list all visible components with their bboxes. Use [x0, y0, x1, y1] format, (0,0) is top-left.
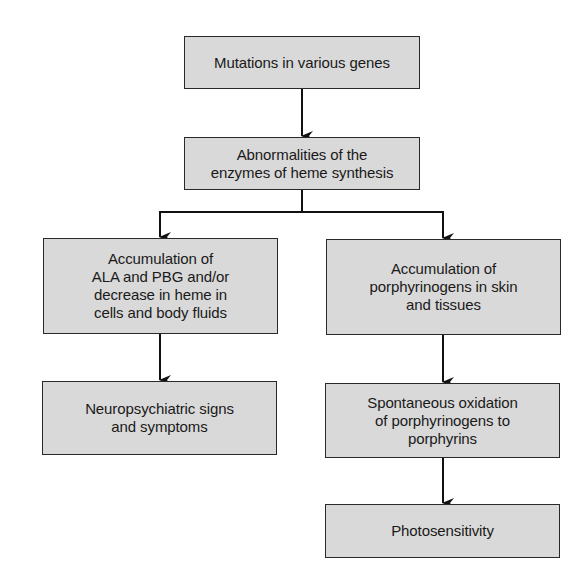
node-enzyme-abnormalities: Abnormalities of the enzymes of heme syn… — [184, 137, 420, 190]
node-porphyrinogen-accumulation: Accumulation of porphyrinogens in skin a… — [326, 239, 561, 335]
flowchart-canvas: Mutations in various genes Abnormalities… — [0, 0, 588, 574]
node-spontaneous-oxidation: Spontaneous oxidation of porphyrinogens … — [325, 383, 560, 458]
node-photosensitivity: Photosensitivity — [325, 504, 560, 558]
node-ala-pbg-accumulation: Accumulation of ALA and PBG and/or decre… — [43, 238, 278, 334]
node-mutations: Mutations in various genes — [184, 36, 420, 89]
node-neuropsychiatric-signs: Neuropsychiatric signs and symptoms — [42, 381, 277, 455]
